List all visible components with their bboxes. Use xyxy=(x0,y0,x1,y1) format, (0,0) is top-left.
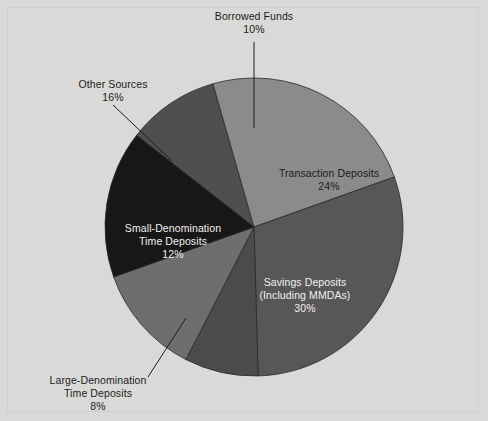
pie-chart-svg xyxy=(0,0,488,421)
slice-label-transaction-deposits-name: Transaction Deposits xyxy=(264,167,394,180)
slice-label-borrowed-funds-name: Borrowed Funds xyxy=(184,10,324,23)
slice-label-small-denomination-name: Small-Denomination xyxy=(108,222,238,235)
slice-label-savings-deposits-detail: (Including MMDAs) xyxy=(238,289,372,302)
slice-label-other-sources: Other Sources 16% xyxy=(48,78,178,104)
pie-chart-figure: Borrowed Funds 10% Other Sources 16% Tra… xyxy=(0,0,488,421)
slice-label-savings-deposits: Savings Deposits (Including MMDAs) 30% xyxy=(238,276,372,315)
slice-label-small-denomination: Small-Denomination Time Deposits 12% xyxy=(108,222,238,261)
slice-label-borrowed-funds-value: 10% xyxy=(184,23,324,36)
slice-label-transaction-deposits-value: 24% xyxy=(264,180,394,193)
slice-label-savings-deposits-name: Savings Deposits xyxy=(238,276,372,289)
slice-label-large-denomination: Large-Denomination Time Deposits 8% xyxy=(13,374,183,413)
slice-label-large-denomination-name: Large-Denomination xyxy=(13,374,183,387)
slice-label-large-denomination-detail: Time Deposits xyxy=(13,387,183,400)
slice-label-other-sources-value: 16% xyxy=(48,91,178,104)
slice-label-other-sources-name: Other Sources xyxy=(48,78,178,91)
slice-label-large-denomination-value: 8% xyxy=(13,400,183,413)
slice-label-savings-deposits-value: 30% xyxy=(238,302,372,315)
slice-label-small-denomination-value: 12% xyxy=(108,248,238,261)
slice-label-transaction-deposits: Transaction Deposits 24% xyxy=(264,167,394,193)
slice-label-small-denomination-detail: Time Deposits xyxy=(108,235,238,248)
slice-label-borrowed-funds: Borrowed Funds 10% xyxy=(184,10,324,36)
